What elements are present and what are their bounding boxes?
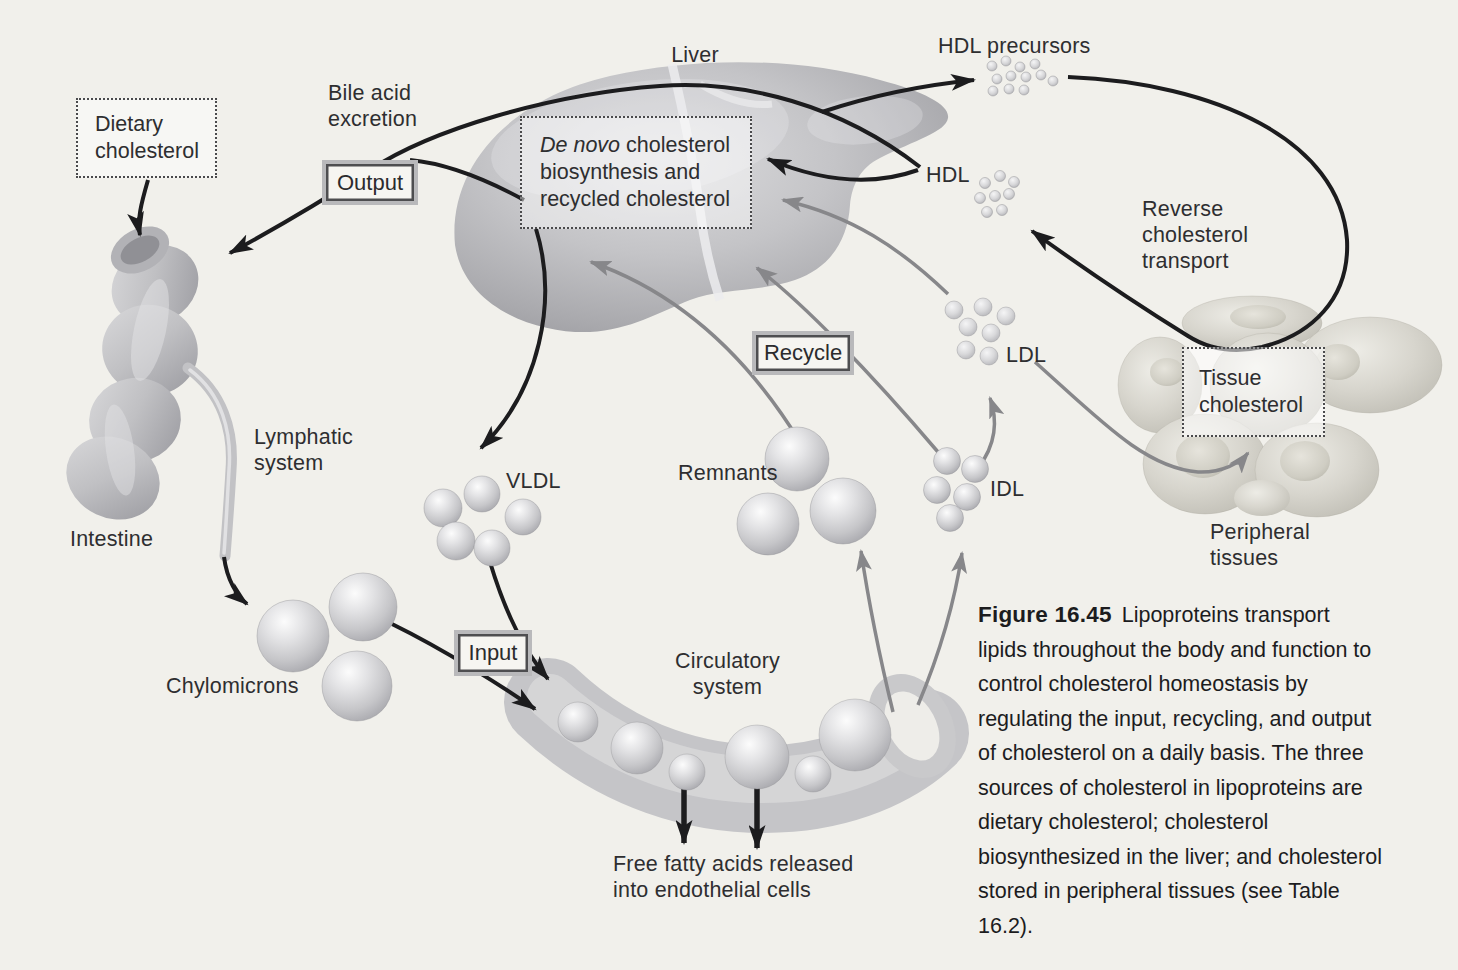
ldl-particles [945,298,1015,365]
figure-caption-text: Lipoproteins transport lipids throughout… [978,603,1382,938]
bile-acid-excretion-label: Bile acid excretion [328,80,432,132]
figure-16-45-diagram: Liver HDL precursors HDL Reverse cholest… [0,0,1458,970]
intestine-label: Intestine [70,526,180,552]
remnant-particles [737,427,876,555]
peripheral-tissues-label: Peripheral tissues [1210,519,1325,571]
idl-particles [924,448,989,532]
arrow-duct-to-chylomicrons [224,557,247,604]
de-novo-italic-text: De novo [540,133,620,157]
remnants-label: Remnants [678,460,798,486]
hdl-precursors-label: HDL precursors [938,33,1108,59]
circulatory-system-label: Circulatory system [645,648,810,700]
dietary-cholesterol-box: Dietary cholesterol [76,98,217,178]
figure-caption: Figure 16.45Lipoproteins transport lipid… [978,598,1382,943]
figure-caption-number: Figure 16.45 [978,602,1112,627]
lymphatic-system-label: Lymphatic system [254,424,370,476]
hdl-precursor-particles [987,56,1058,96]
dietary-cholesterol-label: Dietary cholesterol [95,111,215,165]
tissue-cholesterol-box: Tissue cholesterol [1182,347,1325,437]
output-label: Output [337,170,403,196]
recycle-label: Recycle [764,340,842,366]
recycle-process-box: Recycle [752,331,854,375]
ldl-label: LDL [1006,342,1066,368]
chylomicrons-label: Chylomicrons [166,673,326,699]
de-novo-cholesterol-box: De novo cholesterol biosynthesis and rec… [520,116,752,229]
lymphatic-duct-illustration [188,368,231,556]
input-process-box: Input [454,630,532,676]
vldl-label: VLDL [506,468,586,494]
idl-label: IDL [990,476,1050,502]
input-label: Input [469,640,518,666]
de-novo-cholesterol-label: De novo cholesterol biosynthesis and rec… [540,132,750,213]
free-fatty-acids-label: Free fatty acids released into endotheli… [613,851,871,903]
output-process-box: Output [322,160,418,205]
tissue-cholesterol-label: Tissue cholesterol [1199,365,1323,419]
hdl-label: HDL [926,162,986,188]
intestine-illustration [53,217,213,535]
liver-label: Liver [645,42,745,68]
reverse-cholesterol-transport-label: Reverse cholesterol transport [1142,196,1264,274]
